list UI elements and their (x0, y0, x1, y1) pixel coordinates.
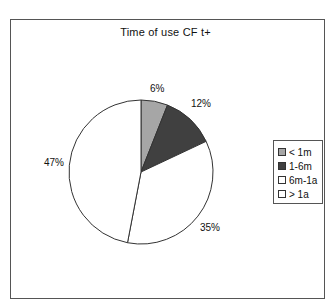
legend-item-6m-1a: 6m-1a (278, 173, 322, 187)
legend-item-lt1m: < 1m (278, 145, 322, 159)
slice-label-1-6m: 12% (191, 98, 211, 109)
legend-swatch-icon (278, 176, 286, 184)
legend-item-gt1a: > 1a (278, 187, 322, 201)
legend-item-1-6m: 1-6m (278, 159, 322, 173)
pie-slice (69, 100, 141, 243)
legend: < 1m 1-6m 6m-1a > 1a (273, 140, 323, 204)
legend-swatch-icon (278, 162, 286, 170)
slice-label-gt1a: 47% (44, 157, 64, 168)
slice-label-lt1m: 6% (150, 83, 164, 94)
legend-swatch-icon (278, 148, 286, 156)
legend-swatch-icon (278, 190, 286, 198)
slice-label-6m-1a: 35% (200, 222, 220, 233)
